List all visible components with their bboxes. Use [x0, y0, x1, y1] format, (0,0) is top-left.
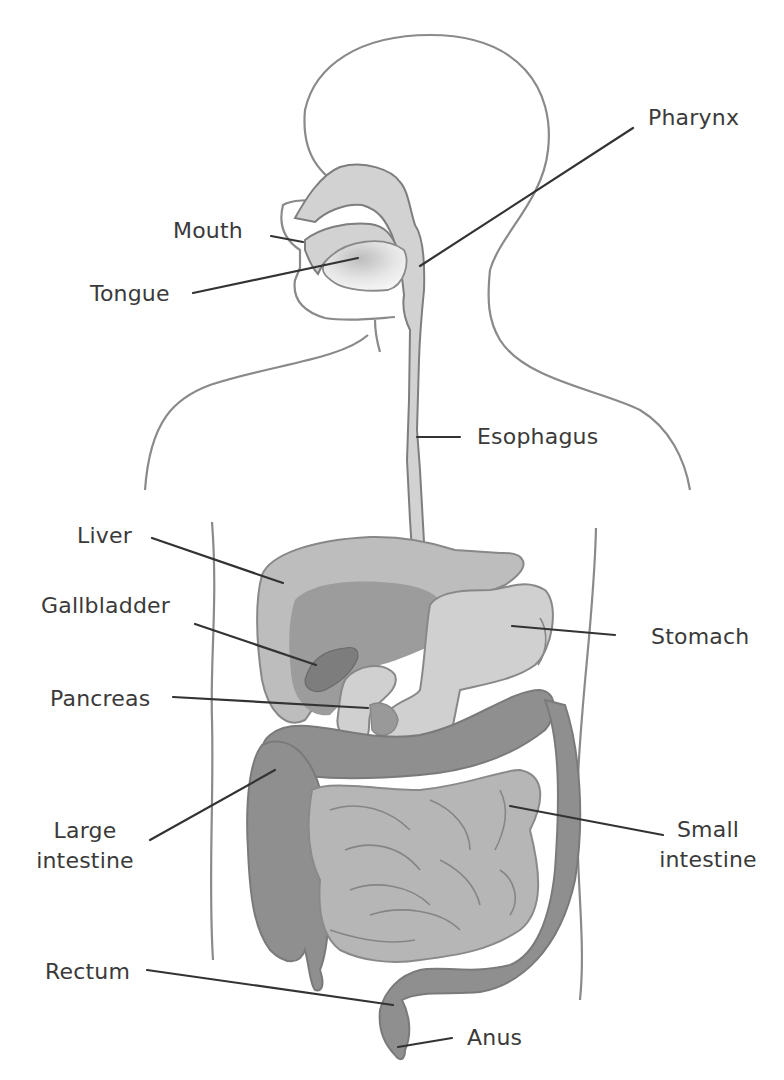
label-liver: Liver [77, 523, 132, 549]
small-intestine-shape [309, 770, 540, 962]
label-pancreas: Pancreas [50, 686, 150, 712]
label-pharynx: Pharynx [648, 105, 739, 131]
label-small-intestine-line1: Small [653, 817, 763, 843]
label-rectum: Rectum [45, 959, 130, 985]
label-large-intestine-line2: intestine [30, 848, 140, 874]
label-large-intestine-line1: Large [30, 818, 140, 844]
label-esophagus: Esophagus [477, 424, 598, 450]
label-stomach: Stomach [651, 624, 749, 650]
label-small-intestine-line2: intestine [653, 847, 763, 873]
label-mouth: Mouth [173, 218, 243, 244]
label-gallbladder: Gallbladder [41, 593, 170, 619]
label-large-intestine: Large intestine [30, 818, 140, 874]
label-anus: Anus [467, 1025, 522, 1051]
label-tongue: Tongue [90, 281, 170, 307]
label-small-intestine: Small intestine [653, 817, 763, 873]
